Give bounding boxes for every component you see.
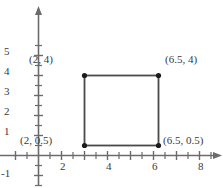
data-point-bottom-right bbox=[156, 143, 161, 148]
data-point-bottom-left bbox=[82, 143, 87, 148]
data-point-label-top-left: (2, 4) bbox=[29, 54, 53, 65]
coordinate-plane-figure: (2, 4) (6.5, 4) (2, 0.5) (6.5, 0.5) 2 4 … bbox=[0, 0, 223, 188]
x-axis-arrowhead bbox=[213, 152, 222, 159]
y-axis-tick-label-1: 1 bbox=[4, 126, 10, 137]
y-axis-tick-label-3: 3 bbox=[4, 86, 10, 97]
y-axis-arrowhead bbox=[35, 6, 42, 15]
data-point-top-left bbox=[82, 73, 87, 78]
data-point-top-right bbox=[156, 73, 161, 78]
x-axis-tick-label-8: 8 bbox=[198, 161, 204, 172]
x-axis-tick-label-2: 2 bbox=[60, 161, 66, 172]
data-point-label-bottom-left: (2, 0.5) bbox=[20, 135, 52, 146]
x-axis-tick-label-6: 6 bbox=[152, 161, 158, 172]
y-axis-tick-label-5: 5 bbox=[4, 46, 10, 57]
y-axis-tick-label-4: 4 bbox=[4, 66, 10, 77]
y-axis-tick-label-minus-1: -1 bbox=[1, 168, 10, 179]
y-axis-tick-label-2: 2 bbox=[4, 106, 10, 117]
data-point-label-bottom-right: (6.5, 0.5) bbox=[163, 135, 203, 146]
data-point-label-top-right: (6.5, 4) bbox=[165, 54, 197, 65]
plotted-rectangle bbox=[85, 76, 159, 146]
x-axis-tick-label-4: 4 bbox=[106, 161, 112, 172]
